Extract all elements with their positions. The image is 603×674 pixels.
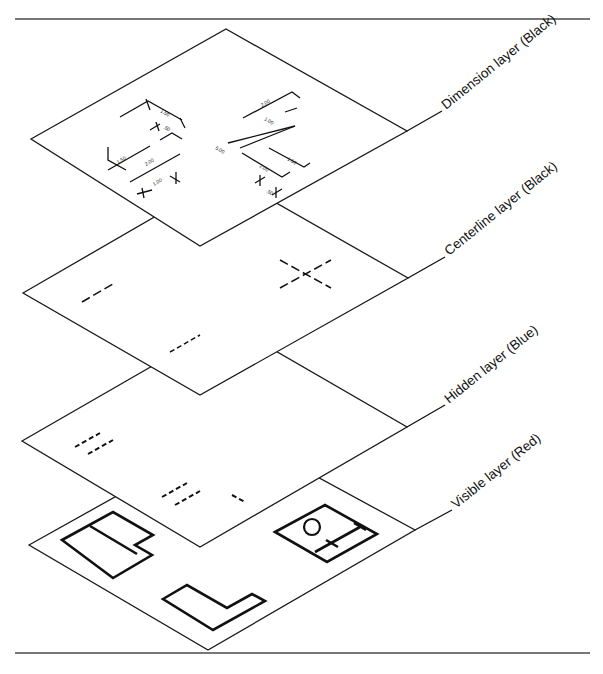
centerline-layer-label: Centerline layer (Black) [441, 158, 559, 258]
dimension-layer: 1.50 .50 1.50 2.00 1.00 2.00 1.00 5.00 2… [31, 29, 407, 246]
visible-layer-label: Visible layer (Red) [448, 430, 543, 511]
hidden-layer-label: Hidden layer (Blue) [441, 322, 540, 406]
layer-diagram: 1.50 .50 1.50 2.00 1.00 2.00 1.00 5.00 2… [0, 0, 603, 674]
dimension-layer-label: Dimension layer (Black) [438, 11, 558, 112]
